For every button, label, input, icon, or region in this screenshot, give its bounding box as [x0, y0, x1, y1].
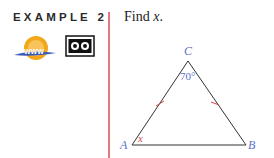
triangle-figure: C 70° A x B	[100, 30, 274, 158]
angle-c: 70°	[180, 70, 195, 82]
angle-x: x	[137, 132, 143, 144]
video-icon[interactable]	[65, 35, 95, 57]
example-label: EXAMPLE 2	[13, 11, 107, 23]
vertex-a: A	[119, 138, 128, 152]
prompt: Find x.	[124, 9, 163, 25]
vertex-b: B	[248, 138, 256, 152]
svg-text:WWW: WWW	[24, 48, 44, 55]
www-icon[interactable]: WWW	[12, 34, 58, 64]
vertex-c: C	[184, 44, 193, 58]
